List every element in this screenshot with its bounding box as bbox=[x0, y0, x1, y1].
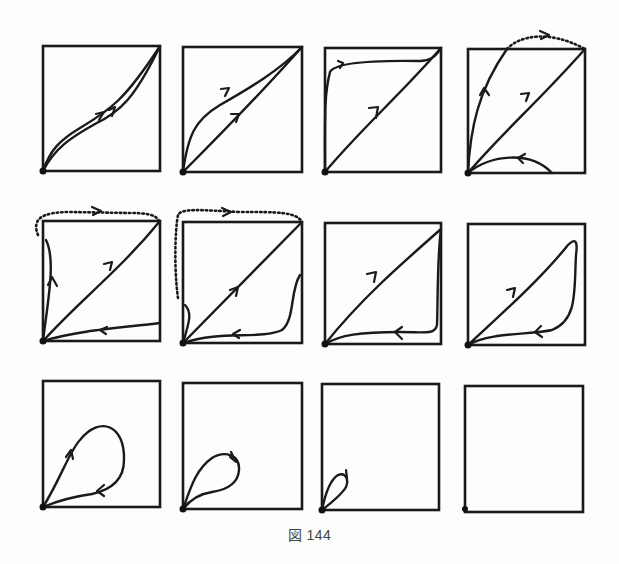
panel-3 bbox=[322, 48, 442, 176]
panel-12 bbox=[462, 386, 583, 512]
panel-4 bbox=[465, 31, 586, 177]
figure-144 bbox=[0, 0, 619, 564]
panel-2 bbox=[180, 47, 303, 176]
panel-5 bbox=[36, 207, 160, 345]
panel-7 bbox=[322, 223, 442, 348]
panel-9 bbox=[40, 381, 161, 511]
panel-11 bbox=[319, 384, 440, 514]
figure-caption: 図 144 bbox=[0, 524, 619, 544]
panel-6 bbox=[175, 208, 302, 347]
panel-1 bbox=[40, 46, 161, 175]
panel-8 bbox=[465, 224, 586, 349]
panel-10 bbox=[180, 383, 303, 513]
